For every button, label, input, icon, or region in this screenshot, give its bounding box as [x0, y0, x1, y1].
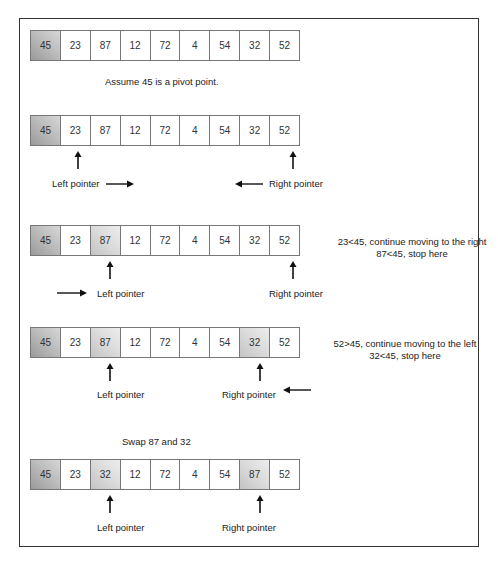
step-1-caption: Assume 45 is a pivot point.: [105, 76, 219, 87]
arrow-up-icon: [288, 261, 298, 279]
array-cell: 23: [60, 225, 91, 256]
array-cell: 12: [120, 459, 151, 490]
arrow-up-icon: [105, 261, 115, 279]
array-cell-pivot: 45: [30, 30, 61, 61]
array-cell: 52: [269, 459, 300, 490]
array-cell: 12: [120, 30, 151, 61]
array-cell: 32: [239, 225, 270, 256]
array-cell: 32: [239, 30, 270, 61]
right-pointer-label: Right pointer: [222, 389, 276, 400]
array-cell: 23: [60, 327, 91, 358]
array-cell: 87: [90, 115, 121, 146]
array-cell-highlighted: 32: [90, 459, 121, 490]
array-cell: 52: [269, 225, 300, 256]
array-cell: 54: [209, 327, 240, 358]
array-cell: 23: [60, 30, 91, 61]
array-row-step-3: 45 23 87 12 72 4 54 32 52: [30, 225, 300, 256]
array-cell: 72: [150, 459, 181, 490]
array-cell-highlighted: 87: [239, 459, 270, 490]
array-row-step-4: 45 23 87 12 72 4 54 32 52: [30, 327, 300, 358]
array-cell-pivot: 45: [30, 225, 61, 256]
array-cell: 54: [209, 115, 240, 146]
note-line: 23<45, continue moving to the right: [322, 236, 498, 248]
arrow-left-icon: [283, 386, 311, 394]
array-row-step-2: 45 23 87 12 72 4 54 32 52: [30, 115, 300, 146]
array-cell: 72: [150, 30, 181, 61]
array-cell-highlighted: 32: [239, 327, 270, 358]
array-cell-pivot: 45: [30, 327, 61, 358]
array-cell: 54: [209, 225, 240, 256]
array-row-step-1: 45 23 87 12 72 4 54 32 52: [30, 30, 300, 61]
note-line: 52>45, continue moving to the left: [325, 338, 485, 350]
note-line: 87<45, stop here: [322, 248, 498, 260]
right-pointer-label: Right pointer: [269, 288, 323, 299]
array-cell: 52: [269, 327, 300, 358]
array-cell: 12: [120, 225, 151, 256]
array-cell: 32: [239, 115, 270, 146]
array-cell: 54: [209, 459, 240, 490]
arrow-up-icon: [73, 151, 83, 169]
arrow-up-icon: [105, 495, 115, 513]
left-pointer-label: Left pointer: [52, 178, 100, 189]
arrow-up-icon: [255, 363, 265, 381]
arrow-up-icon: [105, 363, 115, 381]
array-cell-highlighted: 87: [90, 327, 121, 358]
array-cell-highlighted: 87: [90, 225, 121, 256]
array-cell: 72: [150, 327, 181, 358]
right-pointer-label: Right pointer: [269, 178, 323, 189]
array-cell: 4: [179, 327, 210, 358]
step-4-note: 52>45, continue moving to the left 32<45…: [325, 338, 485, 362]
array-cell: 23: [60, 459, 91, 490]
arrow-right-icon: [106, 180, 134, 188]
left-pointer-label: Left pointer: [97, 389, 145, 400]
note-line: 32<45, stop here: [325, 350, 485, 362]
left-pointer-label: Left pointer: [97, 288, 145, 299]
arrow-left-icon: [235, 180, 263, 188]
array-cell: 4: [179, 459, 210, 490]
arrow-right-icon: [57, 289, 87, 297]
array-cell: 4: [179, 225, 210, 256]
array-cell: 72: [150, 115, 181, 146]
step-3-note: 23<45, continue moving to the right 87<4…: [322, 236, 498, 260]
array-cell-pivot: 45: [30, 115, 61, 146]
array-cell-pivot: 45: [30, 459, 61, 490]
step-5-caption: Swap 87 and 32: [122, 436, 191, 447]
array-cell: 4: [179, 30, 210, 61]
arrow-up-icon: [255, 495, 265, 513]
array-cell: 52: [269, 30, 300, 61]
array-cell: 54: [209, 30, 240, 61]
array-cell: 87: [90, 30, 121, 61]
array-cell: 12: [120, 115, 151, 146]
array-cell: 23: [60, 115, 91, 146]
array-cell: 72: [150, 225, 181, 256]
array-row-step-5: 45 23 32 12 72 4 54 87 52: [30, 459, 300, 490]
array-cell: 12: [120, 327, 151, 358]
left-pointer-label: Left pointer: [97, 522, 145, 533]
arrow-up-icon: [288, 151, 298, 169]
array-cell: 4: [179, 115, 210, 146]
array-cell: 52: [269, 115, 300, 146]
right-pointer-label: Right pointer: [222, 522, 276, 533]
